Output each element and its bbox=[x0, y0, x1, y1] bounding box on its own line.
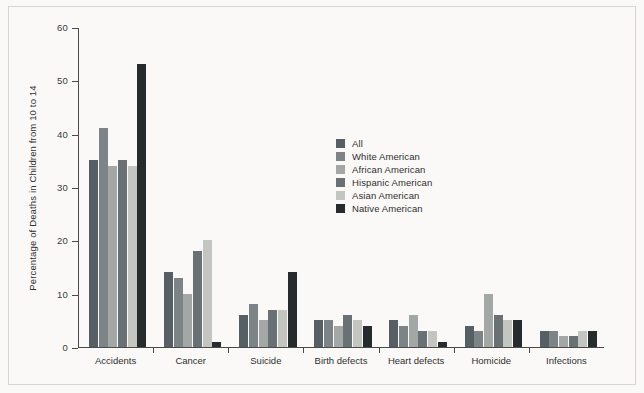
y-axis-tick-label: 50 bbox=[44, 75, 68, 86]
y-axis-tick bbox=[72, 28, 78, 29]
legend-item[interactable]: Asian American bbox=[336, 190, 466, 202]
x-axis-label: Heart defects bbox=[379, 355, 454, 366]
bar bbox=[183, 294, 192, 347]
bar bbox=[278, 310, 287, 347]
chart-legend: AllWhite AmericanAfrican AmericanHispani… bbox=[336, 138, 466, 216]
y-axis-tick-label: 20 bbox=[44, 235, 68, 246]
bar bbox=[409, 315, 418, 347]
legend-item[interactable]: All bbox=[336, 138, 466, 150]
bar bbox=[389, 320, 398, 347]
x-axis-label: Accidents bbox=[78, 355, 153, 366]
legend-item-label: White American bbox=[352, 151, 420, 162]
bar bbox=[203, 240, 212, 347]
legend-swatch-icon bbox=[336, 178, 345, 187]
bar bbox=[503, 320, 512, 347]
bar bbox=[174, 278, 183, 347]
bar bbox=[353, 320, 362, 347]
bar bbox=[128, 166, 137, 347]
x-axis-tick bbox=[454, 348, 455, 353]
bar bbox=[239, 315, 248, 347]
y-axis-tick bbox=[72, 81, 78, 82]
x-axis-label: Cancer bbox=[153, 355, 228, 366]
y-axis-tick-label: 10 bbox=[44, 289, 68, 300]
y-axis-title: Percentage of Deaths in Children from 10… bbox=[26, 0, 40, 28]
legend-item-label: Asian American bbox=[352, 190, 419, 201]
bar bbox=[474, 331, 483, 347]
legend-swatch-icon bbox=[336, 204, 345, 213]
x-axis-tick bbox=[529, 348, 530, 353]
bar bbox=[343, 315, 352, 347]
bar bbox=[513, 320, 522, 347]
legend-item-label: Native American bbox=[352, 203, 423, 214]
y-axis-tick-label: 30 bbox=[44, 182, 68, 193]
legend-item[interactable]: White American bbox=[336, 151, 466, 163]
legend-item[interactable]: Hispanic American bbox=[336, 177, 466, 189]
y-axis-tick-label: 0 bbox=[44, 342, 68, 353]
bar bbox=[465, 326, 474, 347]
x-axis-line bbox=[78, 347, 604, 348]
x-axis-tick bbox=[153, 348, 154, 353]
bar bbox=[494, 315, 503, 347]
bar bbox=[288, 272, 297, 347]
legend-swatch-icon bbox=[336, 165, 345, 174]
x-axis-label: Birth defects bbox=[303, 355, 378, 366]
bar bbox=[428, 331, 437, 347]
bar bbox=[259, 320, 268, 347]
legend-item-label: All bbox=[352, 138, 363, 149]
bar bbox=[363, 326, 372, 347]
bar bbox=[314, 320, 323, 347]
y-axis-tick-label: 60 bbox=[44, 22, 68, 33]
bar bbox=[578, 331, 587, 347]
bar bbox=[137, 64, 146, 347]
bar bbox=[569, 336, 578, 347]
x-axis-label: Infections bbox=[529, 355, 604, 366]
y-axis-tick bbox=[72, 188, 78, 189]
bar bbox=[89, 160, 98, 347]
bar bbox=[108, 166, 117, 347]
y-axis-tick bbox=[72, 295, 78, 296]
legend-item[interactable]: Native American bbox=[336, 203, 466, 215]
bar bbox=[438, 342, 447, 347]
legend-swatch-icon bbox=[336, 139, 345, 148]
bar bbox=[324, 320, 333, 347]
legend-item-label: Hispanic American bbox=[352, 177, 432, 188]
bar bbox=[484, 294, 493, 347]
x-axis-label: Homicide bbox=[454, 355, 529, 366]
y-axis-tick bbox=[72, 135, 78, 136]
y-axis-tick bbox=[72, 241, 78, 242]
bar bbox=[549, 331, 558, 347]
bar bbox=[540, 331, 549, 347]
bar bbox=[212, 342, 221, 347]
bar bbox=[559, 336, 568, 347]
y-axis-tick bbox=[72, 348, 78, 349]
y-axis-title-text: Percentage of Deaths in Children from 10… bbox=[26, 28, 40, 348]
y-axis-tick-label: 40 bbox=[44, 129, 68, 140]
bar bbox=[249, 304, 258, 347]
bar bbox=[418, 331, 427, 347]
bar bbox=[99, 128, 108, 347]
bar bbox=[334, 326, 343, 347]
legend-item[interactable]: African American bbox=[336, 164, 466, 176]
legend-item-label: African American bbox=[352, 164, 425, 175]
x-axis-label: Suicide bbox=[228, 355, 303, 366]
chart-figure: Percentage of Deaths in Children from 10… bbox=[0, 0, 644, 393]
x-axis-tick bbox=[228, 348, 229, 353]
legend-swatch-icon bbox=[336, 152, 345, 161]
bar bbox=[268, 310, 277, 347]
legend-swatch-icon bbox=[336, 191, 345, 200]
x-axis-tick bbox=[303, 348, 304, 353]
bar bbox=[118, 160, 127, 347]
bar bbox=[193, 251, 202, 347]
bar bbox=[164, 272, 173, 347]
y-axis-line bbox=[78, 28, 79, 348]
bar bbox=[399, 326, 408, 347]
bar bbox=[588, 331, 597, 347]
x-axis-tick bbox=[379, 348, 380, 353]
